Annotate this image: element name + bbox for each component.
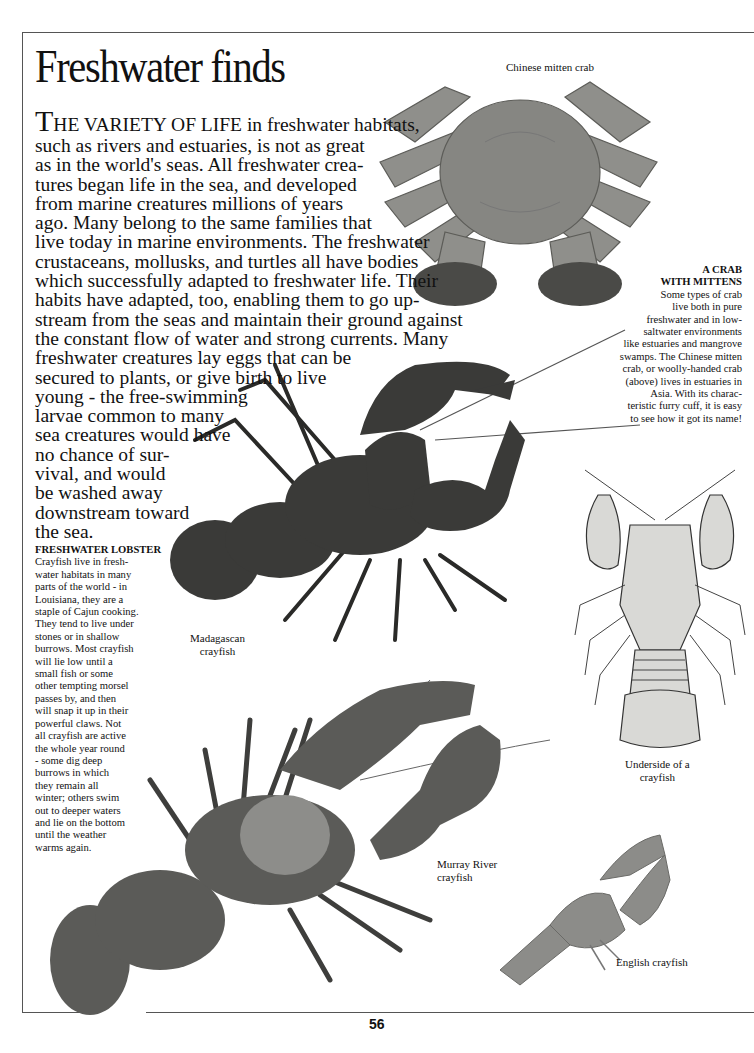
intro-paragraph: THE VARIETY OF LIFE in freshwater habita… (35, 106, 463, 541)
caption-english-crayfish: English crayfish (616, 956, 688, 969)
intro-line: secured to plants, or give birth to live (35, 368, 463, 387)
intro-line: sea creatures would have (35, 425, 463, 444)
page-title: Freshwater finds (35, 44, 285, 90)
intro-line: no chance of sur- (35, 445, 463, 464)
frame-left-rule (22, 32, 23, 1013)
page-number: 56 (369, 1016, 385, 1032)
sidebar-heading: A CRAB (620, 264, 742, 276)
intro-line: such as rivers and estuaries, is not as … (35, 136, 463, 155)
intro-line: crustaceans, mollusks, and turtles all h… (35, 252, 463, 271)
intro-line: as in the world's seas. All freshwater c… (35, 155, 463, 174)
intro-line: freshwater creatures lay eggs that can b… (35, 348, 463, 367)
sidebar-heading: FRESHWATER LOBSTER (35, 544, 161, 556)
intro-line: live today in marine environments. The f… (35, 232, 463, 251)
crab-with-mittens-sidebar: A CRAB WITH MITTENS Some types of crab l… (620, 264, 742, 425)
caption-murray-river-crayfish: Murray River crayfish (437, 858, 497, 883)
caption-underside-crayfish: Underside of a crayfish (625, 758, 690, 783)
intro-line: be washed away (35, 483, 463, 502)
caption-madagascan-crayfish: Madagascan crayfish (190, 632, 245, 657)
intro-line: larvae common to many (35, 406, 463, 425)
intro-line: young - the free-swimming (35, 387, 463, 406)
intro-line: vival, and would (35, 464, 463, 483)
intro-line: tures began life in the sea, and develop… (35, 175, 463, 194)
intro-line: from marine creatures millions of years (35, 194, 463, 213)
intro-line: stream from the seas and maintain their … (35, 310, 463, 329)
freshwater-lobster-sidebar: FRESHWATER LOBSTER Crayfish live in fres… (35, 544, 161, 854)
small-caps-lead: HE VARIETY OF LIFE (53, 114, 242, 135)
intro-line: habits have adapted, too, enabling them … (35, 290, 463, 309)
underside-crayfish-image (570, 465, 750, 755)
drop-cap: T (35, 104, 53, 137)
frame-top-rule (22, 32, 754, 33)
sidebar-heading: WITH MITTENS (620, 276, 742, 288)
intro-line: which successfully adapted to freshwater… (35, 271, 463, 290)
intro-line: the sea. (35, 522, 463, 541)
intro-line: THE VARIETY OF LIFE in freshwater habita… (35, 106, 463, 136)
intro-line: downstream toward (35, 503, 463, 522)
intro-line: ago. Many belong to the same families th… (35, 213, 463, 232)
intro-line: the constant flow of water and strong cu… (35, 329, 463, 348)
caption-chinese-mitten-crab: Chinese mitten crab (506, 61, 594, 74)
